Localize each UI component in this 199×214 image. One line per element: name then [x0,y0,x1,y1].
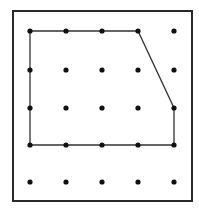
grid-dot [63,142,68,147]
grid-dot [27,142,32,147]
grid-dot [27,67,32,72]
grid-dot [171,179,176,184]
grid-dot [99,179,104,184]
grid-dot [99,28,104,33]
grid-dot [171,105,176,110]
grid-dot [63,28,68,33]
grid-dot [171,67,176,72]
grid-dot [99,142,104,147]
grid-dot [135,105,140,110]
grid-dot [63,105,68,110]
grid-dot [135,142,140,147]
grid-dot [171,28,176,33]
grid-dot [27,28,32,33]
grid-dot [99,67,104,72]
grid-dot [171,142,176,147]
grid-dot [63,179,68,184]
grid-dot [135,67,140,72]
geoboard-diagram [0,0,199,214]
grid-dot [135,179,140,184]
grid-dot [27,179,32,184]
grid-dot [99,105,104,110]
grid-dot [27,105,32,110]
grid-dot [63,67,68,72]
grid-dot [135,28,140,33]
